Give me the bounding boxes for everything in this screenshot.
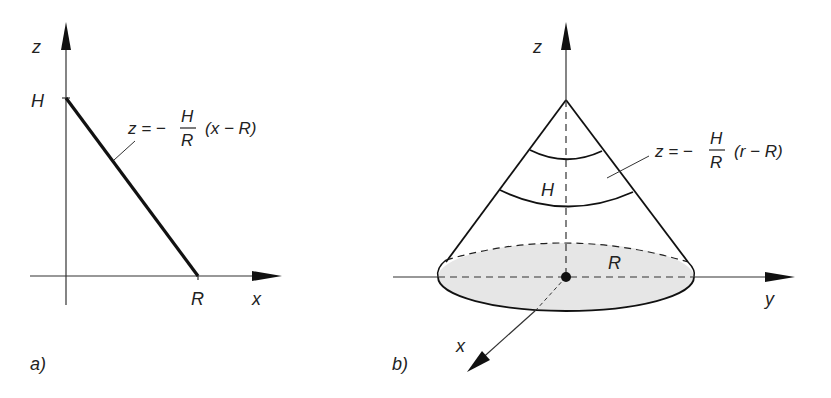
equation-b: z = − H R (r − R) (654, 129, 783, 172)
cone-right-side (566, 100, 688, 262)
z-axis-arrow-icon (61, 22, 71, 50)
x-label-a: x (251, 289, 262, 309)
r-label-a: R (191, 289, 204, 309)
x-axis-arrow-icon (252, 271, 282, 281)
equation-a-num: H (181, 107, 194, 126)
z-axis-b-arrow-icon (561, 22, 571, 50)
z-label-a: z (31, 37, 41, 57)
equation-b-lhs: z = − (654, 142, 693, 161)
panel-a: z H R x a) z = − H R (x − R) (30, 22, 282, 374)
r-label-b: R (608, 253, 621, 273)
equation-b-num: H (710, 129, 723, 148)
panel-b: z H R y x b) z = − H R (r − R) (392, 22, 795, 374)
equation-a-rhs: (x − R) (205, 119, 256, 138)
caption-b: b) (392, 354, 408, 374)
equation-b-den: R (710, 153, 722, 172)
equation-a-lhs: z = − (127, 119, 166, 138)
equation-b-rhs: (r − R) (734, 142, 783, 161)
caption-a: a) (30, 354, 46, 374)
x-label-b: x (455, 336, 466, 356)
y-axis-arrow-icon (765, 272, 795, 282)
z-label-b: z (532, 37, 542, 57)
diagram-canvas: z H R x a) z = − H R (x − R) (0, 0, 831, 398)
equation-leader-b (607, 156, 649, 178)
h-label-b: H (541, 180, 555, 200)
origin-point (561, 272, 571, 282)
equation-leader-a (114, 141, 135, 160)
equation-a: z = − H R (x − R) (127, 107, 256, 150)
y-label-b: y (763, 289, 775, 309)
x-axis-b (478, 310, 536, 362)
h-label-a: H (31, 91, 45, 111)
equation-a-den: R (181, 131, 193, 150)
